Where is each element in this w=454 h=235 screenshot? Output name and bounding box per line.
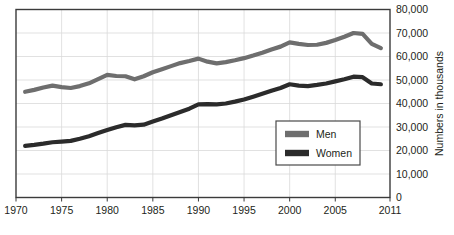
y-tick-label-2: 20,000 bbox=[396, 144, 428, 156]
line-chart: 010,00020,00030,00040,00050,00060,00070,… bbox=[0, 0, 454, 235]
x-tick-label-3: 1985 bbox=[141, 204, 165, 216]
x-tick-label-5: 1995 bbox=[232, 204, 256, 216]
legend-label-men: Men bbox=[316, 128, 337, 140]
y-tick-label-1: 10,000 bbox=[396, 168, 428, 180]
x-tick-label-6: 2000 bbox=[278, 204, 302, 216]
y-axis-tick-labels: 010,00020,00030,00040,00050,00060,00070,… bbox=[396, 3, 428, 203]
x-tick-label-0: 1970 bbox=[4, 204, 28, 216]
legend-swatch-women bbox=[285, 150, 309, 156]
x-tick-label-1: 1975 bbox=[50, 204, 74, 216]
x-tick-label-8: 2011 bbox=[379, 204, 402, 216]
chart-legend[interactable]: MenWomen bbox=[276, 121, 360, 165]
x-tick-label-4: 1990 bbox=[187, 204, 211, 216]
y-tick-label-3: 30,000 bbox=[396, 121, 428, 133]
legend-swatch-men bbox=[285, 131, 309, 137]
x-tick-label-2: 1980 bbox=[96, 204, 120, 216]
y-tick-label-7: 70,000 bbox=[396, 27, 428, 39]
chart-container: 010,00020,00030,00040,00050,00060,00070,… bbox=[0, 0, 454, 235]
x-tick-label-7: 2005 bbox=[324, 204, 348, 216]
y-tick-label-6: 60,000 bbox=[396, 50, 428, 62]
y-tick-label-8: 80,000 bbox=[396, 3, 428, 15]
x-axis-tick-labels: 197019751980198519901995200020052011 bbox=[4, 204, 401, 216]
legend-label-women: Women bbox=[316, 147, 352, 159]
y-axis-title: Numbers in thousands bbox=[433, 51, 445, 156]
y-tick-label-5: 50,000 bbox=[396, 74, 428, 86]
y-tick-label-0: 0 bbox=[396, 191, 402, 203]
y-tick-label-4: 40,000 bbox=[396, 97, 428, 109]
